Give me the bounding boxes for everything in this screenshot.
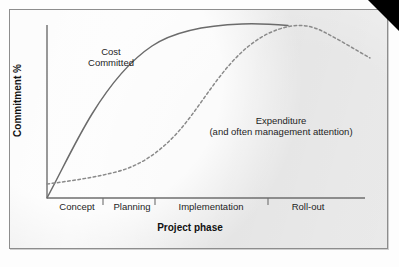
annotation-cost-line1: Cost — [101, 46, 121, 57]
annotation-cost-line2: Committed — [88, 57, 134, 68]
annotation-expenditure-line1: Expenditure — [256, 115, 307, 126]
y-axis-title: Commitment % — [12, 51, 23, 151]
x-tick-label-concept: Concept — [47, 201, 107, 212]
x-tick-label-planning: Planning — [104, 201, 160, 212]
x-tick-label-implementation: Implementation — [158, 201, 264, 212]
x-axis-title: Project phase — [118, 222, 262, 233]
annotation-expenditure-line2: (and often management attention) — [209, 126, 352, 137]
corner-fold-mark — [368, 0, 399, 31]
annotation-expenditure: Expenditure (and often management attent… — [196, 115, 366, 137]
x-tick-label-rollout: Roll-out — [272, 201, 344, 212]
annotation-cost-committed: Cost Committed — [78, 46, 144, 68]
figure-canvas: Commitment % Project phase Concept Plann… — [0, 0, 399, 267]
